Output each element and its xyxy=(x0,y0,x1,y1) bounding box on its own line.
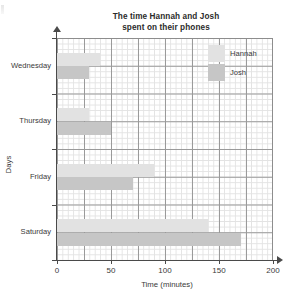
legend-label-hannah: Hannah xyxy=(230,49,257,58)
y-axis-label-saturday: Saturday xyxy=(0,227,51,236)
y-axis-label-thursday: Thursday xyxy=(0,116,51,125)
legend: HannahJosh xyxy=(208,45,286,83)
legend-label-josh: Josh xyxy=(230,68,246,77)
bar-chart: The time Hannah and Josh spent on their … xyxy=(0,0,292,296)
y-axis-label-wednesday: Wednesday xyxy=(0,61,51,70)
y-axis-title: Days xyxy=(4,145,13,185)
legend-swatch-josh xyxy=(208,64,225,81)
x-axis-title: Time (minutes) xyxy=(107,280,227,289)
legend-swatch-hannah xyxy=(208,45,225,62)
